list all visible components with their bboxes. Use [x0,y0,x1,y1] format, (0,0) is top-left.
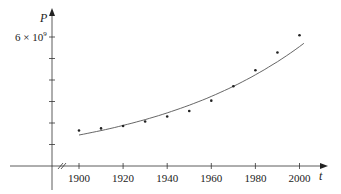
data-point [188,110,191,113]
data-point [122,125,125,128]
data-point [254,69,257,72]
data-point [232,85,235,88]
data-point [144,120,147,123]
data-point [298,34,301,37]
y-axis-label: P [39,11,48,25]
model-curve [79,43,304,135]
data-point [276,51,279,54]
data-point [100,127,103,130]
x-tick-label: 2000 [289,172,312,184]
data-points [78,34,301,132]
data-point [210,99,213,102]
x-tick-label: 1980 [244,172,267,184]
x-tick-label: 1940 [156,172,179,184]
y-tick-label: 6 × 109 [15,30,47,43]
population-chart: 190019201940196019802000 P t 6 × 109 [0,0,341,194]
data-point [166,115,169,118]
x-tick-label: 1900 [68,172,91,184]
x-axis-label: t [319,169,323,183]
x-tick-label: 1920 [112,172,135,184]
data-point [78,129,81,132]
x-tick-label: 1960 [200,172,223,184]
axes: 190019201940196019802000 [10,8,328,190]
